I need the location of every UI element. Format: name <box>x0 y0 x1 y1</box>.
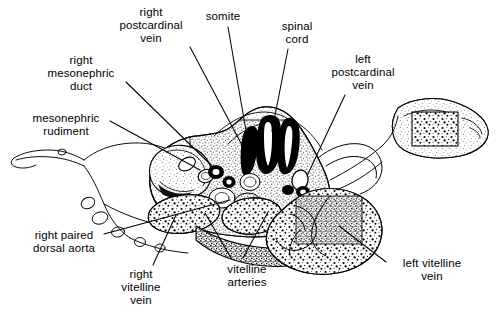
notochord-vesicle <box>240 174 260 191</box>
label-mesonephric-rudiment: mesonephric rudiment <box>20 112 112 138</box>
leader-right-postcardinal-vein <box>190 47 243 147</box>
label-left-vitelline-vein: left vitelline vein <box>388 257 476 283</box>
figure-canvas: right postcardinal vein somite spinal co… <box>0 0 496 314</box>
label-right-mesonephric-duct: right mesonephric duct <box>36 54 126 94</box>
label-somite: somite <box>192 10 254 23</box>
label-spinal-cord: spinal cord <box>269 20 325 46</box>
label-left-postcardinal-vein: left postcardinal vein <box>320 53 406 93</box>
label-right-paired-dorsal-aorta: right paired dorsal aorta <box>18 229 110 255</box>
label-right-vitelline-vein: right vitelline vein <box>110 268 172 308</box>
label-right-postcardinal-vein: right postcardinal vein <box>108 6 194 46</box>
label-vitelline-arteries: vitelline arteries <box>212 263 282 289</box>
connecting-stalk <box>330 116 398 190</box>
extraembryonic-tissue-right <box>388 94 492 162</box>
